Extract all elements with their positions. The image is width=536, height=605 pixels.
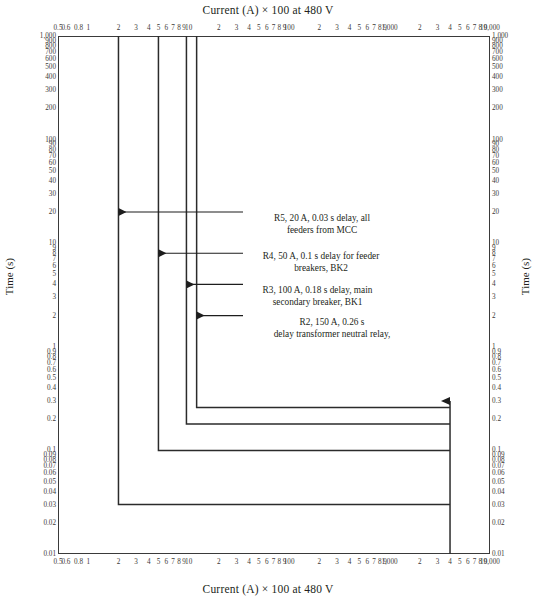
annotation-r4: R4, 50 A, 0.1 s delay for feeder breaker…: [246, 250, 396, 274]
annotation-leaders: [118, 212, 243, 316]
curve-r4: [158, 36, 450, 450]
bottom-axis-title: Current (A) × 100 at 480 V: [0, 583, 536, 595]
annotation-r2: R2, 150 A, 0.26 s delay transformer neut…: [252, 316, 412, 340]
annotation-r3: R3, 100 A, 0.18 s delay, main secondary …: [240, 284, 395, 308]
annotation-r5: R5, 20 A, 0.03 s delay, all feeders from…: [252, 212, 392, 236]
